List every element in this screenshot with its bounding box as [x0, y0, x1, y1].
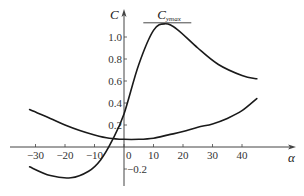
x-tick-label: 30: [207, 149, 219, 161]
y-tick-label: 0.8: [108, 53, 122, 65]
chart: αC −30−20−10010203040−0.20.20.40.60.81.0…: [0, 0, 304, 196]
x-tick-label: 10: [148, 149, 160, 161]
x-tick-label: −20: [56, 149, 74, 161]
y-tick-label: 0.4: [108, 97, 122, 109]
ticks: −30−20−10010203040−0.20.20.40.60.81.0: [27, 31, 248, 175]
cymax-label: Cymax: [157, 7, 181, 23]
y-axis-label: C: [110, 7, 119, 22]
y-tick-label: 1.0: [108, 31, 122, 43]
y-tick-label: 0.6: [108, 75, 122, 87]
drag-curve: [30, 99, 257, 140]
x-axis-label: α: [288, 150, 296, 165]
x-tick-label: 0: [126, 149, 132, 161]
x-tick-label: 40: [237, 149, 249, 161]
y-tick-label: −0.2: [127, 163, 147, 175]
x-tick-label: 20: [178, 149, 190, 161]
annotations: Cymax: [143, 7, 191, 23]
x-tick-label: −30: [27, 149, 45, 161]
